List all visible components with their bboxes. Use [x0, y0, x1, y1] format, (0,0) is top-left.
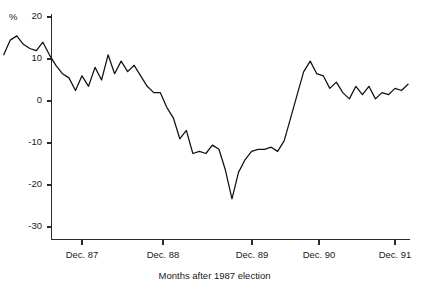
- y-tick-label: -20: [8, 179, 42, 189]
- data-line-percent-change: [4, 36, 408, 199]
- y-tick-label: -10: [8, 137, 42, 147]
- y-tick-label: 0: [8, 95, 42, 105]
- chart-axes: [51, 14, 410, 240]
- x-axis-ticks: [82, 240, 395, 246]
- x-tick-label: Dec. 87: [42, 250, 122, 260]
- y-tick-label: 20: [8, 11, 42, 21]
- x-axis-title: Months after 1987 election: [0, 270, 429, 281]
- x-tick-label: Dec. 90: [279, 250, 359, 260]
- y-tick-label: 10: [8, 53, 42, 63]
- chart-container: % 20100-10-20-30 Dec. 87Dec. 88Dec. 89De…: [0, 0, 429, 299]
- x-tick-label: Dec. 91: [355, 250, 429, 260]
- y-tick-label: -30: [8, 221, 42, 231]
- x-tick-label: Dec. 88: [123, 250, 203, 260]
